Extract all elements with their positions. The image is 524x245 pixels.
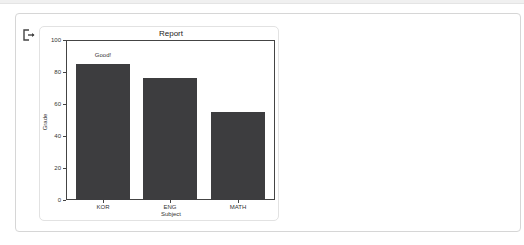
y-tick-label: 20 (41, 165, 61, 171)
x-tick (238, 200, 239, 203)
x-axis-label: Subject (66, 211, 276, 217)
x-tick (103, 200, 104, 203)
bar-eng (143, 78, 197, 200)
y-tick (63, 104, 66, 105)
y-tick-label: 80 (41, 69, 61, 75)
x-tick-label: KOR (83, 204, 123, 210)
x-tick-label: MATH (218, 204, 258, 210)
annotation-label: Good! (83, 52, 123, 58)
top-divider (0, 0, 524, 4)
y-tick (63, 200, 66, 201)
chart-title: Report (66, 29, 276, 38)
x-tick (170, 200, 171, 203)
bar-math (211, 112, 265, 200)
y-tick (63, 40, 66, 41)
x-tick-label: ENG (150, 204, 190, 210)
y-tick-label: 100 (41, 37, 61, 43)
y-tick (63, 136, 66, 137)
y-tick (63, 72, 66, 73)
y-tick-label: 0 (41, 197, 61, 203)
output-icon[interactable] (22, 28, 36, 42)
y-tick (63, 168, 66, 169)
bar-kor (76, 64, 130, 200)
y-axis-label: Grade (42, 102, 48, 142)
